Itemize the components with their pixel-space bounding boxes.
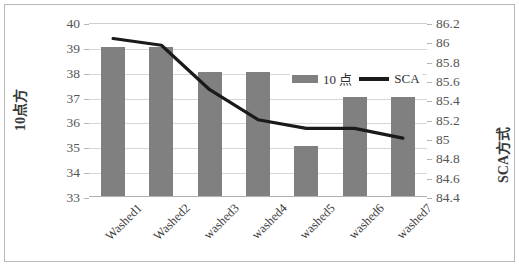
right-tick-mark [427, 140, 432, 141]
x-axis-category-labels: Washed1Washed2washed3washed4washed5washe… [89, 197, 427, 266]
left-axis-title: 10点方 [9, 89, 29, 131]
right-axis-tick-label: 84.8 [436, 151, 460, 167]
left-axis-tick-label: 38 [67, 66, 81, 82]
right-axis-tick-label: 85.8 [436, 55, 460, 71]
chart-legend: 10 点 SCA [290, 68, 422, 89]
chart-screenshot: 10点方 SCA方式 3334353637383940 84.484.684.8… [0, 0, 519, 266]
right-tick-mark [427, 121, 432, 122]
left-axis-tick-label: 34 [67, 165, 81, 181]
x-axis-label: washed3 [201, 201, 243, 243]
legend-bar-swatch-icon [292, 75, 318, 83]
x-axis-label: Washed1 [103, 201, 146, 244]
right-tick-mark [427, 101, 432, 102]
legend-entry-bar: 10 点 [292, 69, 352, 88]
right-tick-mark [427, 63, 432, 64]
right-tick-mark [427, 43, 432, 44]
left-axis-tick-label: 39 [67, 41, 81, 57]
right-axis-tick-label: 85.2 [436, 113, 460, 129]
left-axis-tick-label: 37 [67, 91, 81, 107]
right-tick-mark [427, 198, 432, 199]
left-axis-tick-label: 33 [67, 190, 81, 206]
left-axis-tick-label: 35 [67, 140, 81, 156]
left-axis-tick-label: 40 [67, 16, 81, 32]
line-series-sca [89, 24, 427, 198]
right-axis-title: SCA方式 [492, 127, 512, 183]
legend-line-swatch-icon [359, 77, 389, 81]
chart-frame: 10点方 SCA方式 3334353637383940 84.484.684.8… [4, 4, 515, 262]
legend-bar-label: 10 点 [323, 69, 352, 88]
right-axis-tick-label: 86 [436, 35, 450, 51]
right-axis-tick-label: 85 [436, 132, 450, 148]
right-tick-mark [427, 159, 432, 160]
right-axis-tick-label: 86.2 [436, 16, 460, 32]
right-tick-mark [427, 24, 432, 25]
plot-area: 3334353637383940 84.484.684.88585.285.48… [89, 23, 427, 197]
legend-line-label: SCA [394, 71, 419, 87]
right-axis-tick-label: 84.6 [436, 171, 460, 187]
x-axis-label: washed6 [346, 201, 388, 243]
right-tick-mark [427, 82, 432, 83]
right-axis-tick-label: 85.6 [436, 74, 460, 90]
legend-entry-line: SCA [359, 71, 419, 87]
right-axis-tick-label: 84.4 [436, 190, 460, 206]
left-axis-tick-label: 36 [67, 115, 81, 131]
x-axis-label: washed7 [394, 201, 436, 243]
x-axis-label: Washed2 [151, 201, 194, 244]
x-axis-label: washed4 [249, 201, 291, 243]
right-axis-tick-label: 85.4 [436, 93, 460, 109]
x-axis-label: washed5 [297, 201, 339, 243]
right-tick-mark [427, 179, 432, 180]
